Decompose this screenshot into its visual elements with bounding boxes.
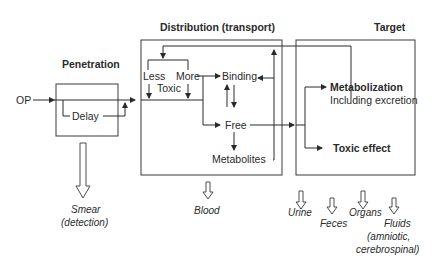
feces-label: Feces xyxy=(320,218,347,229)
toxic-label: Toxic xyxy=(157,82,181,94)
distribution-box: Less More Toxic Binding Free Metabolites xyxy=(141,40,351,175)
free-label: Free xyxy=(225,119,247,131)
smear-label: Smear xyxy=(71,204,101,215)
to-metabolization-arrow xyxy=(305,87,326,125)
fluids-label: Fluids xyxy=(384,218,411,229)
metabolites-label: Metabolites xyxy=(212,153,266,165)
blood-label: Blood xyxy=(194,205,220,216)
to-toxic-effect-arrow xyxy=(296,125,322,148)
distribution-header: Distribution (transport) xyxy=(160,21,275,33)
fluids-amniotic-label: (amniotic, xyxy=(367,231,410,242)
op-input-label: OP xyxy=(16,94,31,106)
less-more-bracket xyxy=(148,60,188,70)
urine-label: Urine xyxy=(288,207,312,218)
less-label: Less xyxy=(143,70,165,82)
delay-label: Delay xyxy=(72,110,100,122)
penetration-header: Penetration xyxy=(62,58,120,70)
metabolites-to-binding-arrow xyxy=(258,78,274,160)
smear-hollow-arrow-icon xyxy=(76,143,90,198)
more-label: More xyxy=(176,70,200,82)
binding-label: Binding xyxy=(222,70,257,82)
delay-branch-line xyxy=(63,100,70,116)
metabolization-label: Metabolization xyxy=(330,81,403,93)
toxic-effect-label: Toxic effect xyxy=(333,142,391,154)
penetration-box: OP Delay xyxy=(16,84,135,136)
toxicokinetics-diagram: Penetration Distribution (transport) Tar… xyxy=(0,0,433,264)
smear-detection-label: (detection) xyxy=(61,217,108,228)
fluids-cerebrospinal-label: cerebrospinal) xyxy=(356,244,419,255)
target-box: Metabolization Including excretion Toxic… xyxy=(296,40,418,175)
delay-return-arrow xyxy=(103,103,125,116)
feces-hollow-arrow-icon xyxy=(327,198,337,214)
fluids-hollow-arrow-icon xyxy=(389,198,399,214)
organs-label: Organs xyxy=(349,207,382,218)
target-header: Target xyxy=(374,21,406,33)
blood-hollow-arrow-icon xyxy=(203,182,213,199)
including-excretion-label: Including excretion xyxy=(330,94,418,106)
